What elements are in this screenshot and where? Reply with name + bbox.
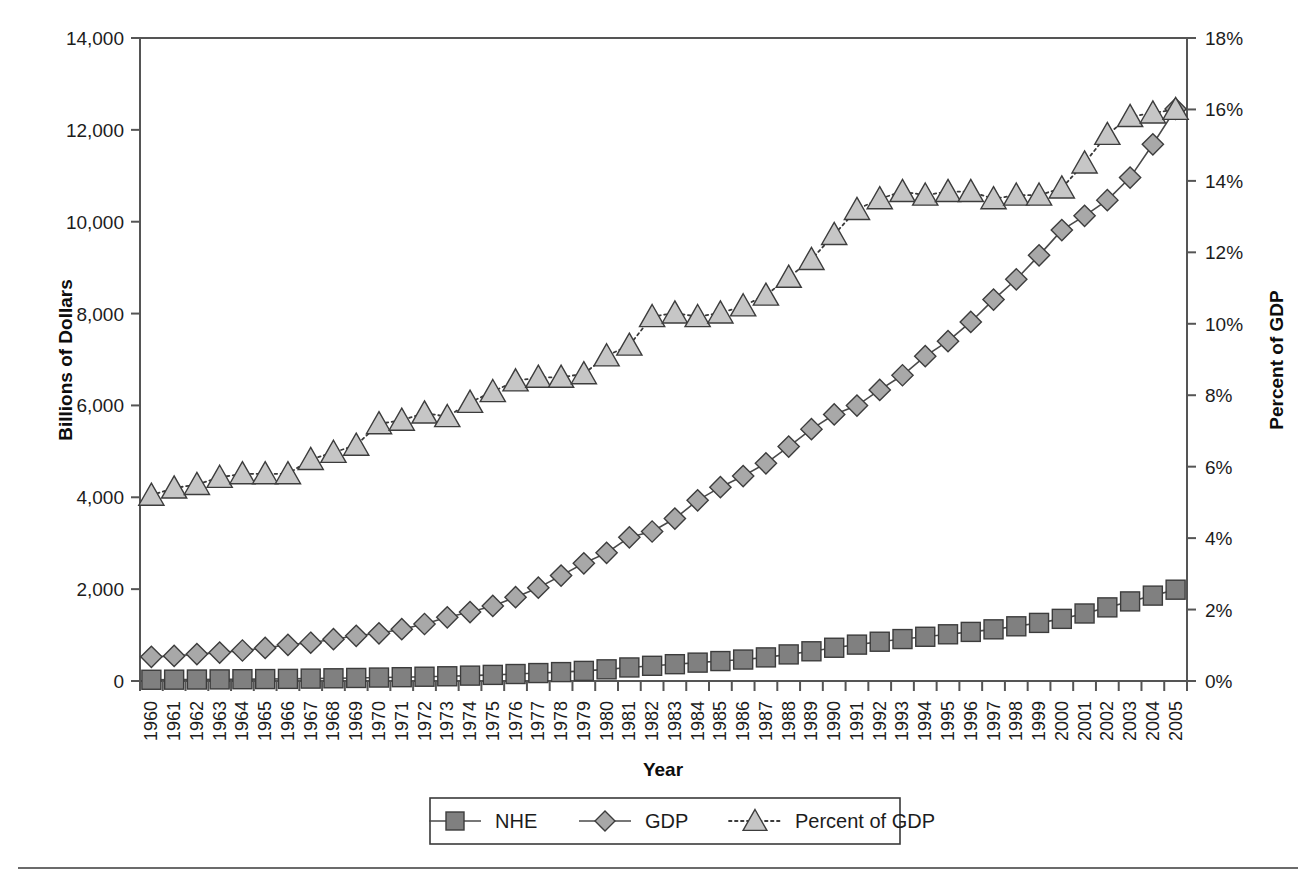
triangle-marker-icon bbox=[981, 187, 1006, 209]
triangle-marker-icon bbox=[617, 333, 642, 355]
square-marker-icon bbox=[233, 670, 252, 689]
triangle-marker-icon bbox=[958, 179, 983, 201]
series-line bbox=[151, 109, 1175, 657]
square-marker-icon bbox=[1098, 598, 1117, 617]
x-tick-label: 1967 bbox=[301, 701, 321, 741]
diamond-marker-icon bbox=[915, 346, 936, 367]
diamond-marker-icon bbox=[186, 643, 207, 664]
square-marker-icon bbox=[893, 630, 912, 649]
triangle-marker-icon bbox=[1072, 151, 1097, 173]
square-marker-icon bbox=[825, 638, 844, 657]
square-marker-icon bbox=[506, 665, 525, 684]
x-tick-label: 1979 bbox=[574, 701, 594, 741]
square-marker-icon bbox=[984, 620, 1003, 639]
x-tick-label: 2005 bbox=[1166, 701, 1186, 741]
diamond-marker-icon bbox=[869, 379, 890, 400]
square-marker-icon bbox=[711, 652, 730, 671]
triangle-marker-icon bbox=[275, 462, 300, 484]
left-axis-title: Billions of Dollars bbox=[55, 279, 76, 441]
square-marker-icon bbox=[1052, 609, 1071, 628]
x-tick-label: 1977 bbox=[528, 701, 548, 741]
x-tick-label: 1985 bbox=[710, 701, 730, 741]
x-tick-label: 2002 bbox=[1097, 701, 1117, 741]
square-marker-icon bbox=[847, 635, 866, 654]
diamond-marker-icon bbox=[164, 645, 185, 666]
diamond-marker-icon bbox=[641, 521, 662, 542]
triangle-marker-icon bbox=[594, 344, 619, 366]
square-marker-icon bbox=[347, 668, 366, 687]
x-axis-title: Year bbox=[643, 759, 684, 780]
x-tick-label: 1993 bbox=[892, 701, 912, 741]
square-marker-icon bbox=[369, 668, 388, 687]
square-marker-icon bbox=[688, 653, 707, 672]
right-tick-label: 2% bbox=[1205, 600, 1233, 621]
triangle-marker-icon bbox=[867, 187, 892, 209]
x-tick-label: 1974 bbox=[460, 701, 480, 741]
square-marker-icon bbox=[529, 664, 548, 683]
square-marker-icon bbox=[278, 669, 297, 688]
square-marker-icon bbox=[1121, 592, 1140, 611]
square-marker-icon bbox=[734, 650, 753, 669]
right-tick-label: 12% bbox=[1205, 242, 1243, 263]
chart-canvas: 02,0004,0006,0008,00010,00012,00014,000 … bbox=[0, 0, 1316, 883]
x-tick-label: 1975 bbox=[483, 701, 503, 741]
diamond-marker-icon bbox=[778, 436, 799, 457]
x-tick-label: 1983 bbox=[665, 701, 685, 741]
triangle-marker-icon bbox=[184, 472, 209, 494]
right-tick-label: 16% bbox=[1205, 99, 1243, 120]
x-tick-label: 1960 bbox=[141, 701, 161, 741]
triangle-marker-icon bbox=[1026, 183, 1051, 205]
left-tick-label: 2,000 bbox=[76, 579, 124, 600]
diamond-marker-icon bbox=[824, 404, 845, 425]
x-tick-label: 1990 bbox=[824, 701, 844, 741]
x-tick-label: 1980 bbox=[597, 701, 617, 741]
series-nhe bbox=[142, 580, 1185, 689]
diamond-marker-icon bbox=[846, 395, 867, 416]
right-tick-label: 8% bbox=[1205, 385, 1233, 406]
x-tick-label: 1997 bbox=[984, 701, 1004, 741]
x-tick-label: 1982 bbox=[642, 701, 662, 741]
triangle-marker-icon bbox=[1049, 176, 1074, 198]
triangle-marker-icon bbox=[139, 483, 164, 505]
diamond-marker-icon bbox=[323, 629, 344, 650]
x-tick-label: 1988 bbox=[779, 701, 799, 741]
triangle-marker-icon bbox=[753, 283, 778, 305]
x-tick-label: 1978 bbox=[551, 701, 571, 741]
x-tick-label: 1998 bbox=[1006, 701, 1026, 741]
x-tick-label: 1986 bbox=[733, 701, 753, 741]
triangle-marker-icon bbox=[298, 447, 323, 469]
square-marker-icon bbox=[1143, 586, 1162, 605]
left-tick-label: 6,000 bbox=[76, 395, 124, 416]
diamond-marker-icon bbox=[141, 646, 162, 667]
x-tick-label: 1996 bbox=[961, 701, 981, 741]
triangle-marker-icon bbox=[1117, 104, 1142, 126]
plot-frame bbox=[140, 38, 1187, 681]
x-tick-label: 1984 bbox=[688, 701, 708, 741]
square-marker-icon bbox=[1166, 580, 1185, 599]
x-tick-label: 1995 bbox=[938, 701, 958, 741]
x-tick-label: 1963 bbox=[210, 701, 230, 741]
x-tick-label: 1989 bbox=[801, 701, 821, 741]
diamond-marker-icon bbox=[528, 577, 549, 598]
square-marker-icon bbox=[802, 642, 821, 661]
left-tick-label: 10,000 bbox=[66, 212, 124, 233]
square-marker-icon bbox=[961, 622, 980, 641]
x-axis-ticks: 1960196119621963196419651966196719681969… bbox=[140, 681, 1187, 741]
square-marker-icon bbox=[483, 665, 502, 684]
triangle-marker-icon bbox=[253, 462, 278, 484]
x-tick-label: 2001 bbox=[1075, 701, 1095, 741]
right-tick-label: 6% bbox=[1205, 457, 1233, 478]
x-tick-label: 1976 bbox=[506, 701, 526, 741]
diamond-marker-icon bbox=[300, 632, 321, 653]
diamond-marker-icon bbox=[368, 623, 389, 644]
series-gdp bbox=[141, 98, 1186, 667]
diamond-marker-icon bbox=[664, 508, 685, 529]
x-tick-label: 1972 bbox=[415, 701, 435, 741]
diamond-marker-icon bbox=[1142, 134, 1163, 155]
square-marker-icon bbox=[552, 663, 571, 682]
right-tick-label: 14% bbox=[1205, 171, 1243, 192]
x-tick-label: 1999 bbox=[1029, 701, 1049, 741]
diamond-marker-icon bbox=[710, 477, 731, 498]
triangle-marker-icon bbox=[1095, 122, 1120, 144]
series-line bbox=[151, 109, 1175, 495]
